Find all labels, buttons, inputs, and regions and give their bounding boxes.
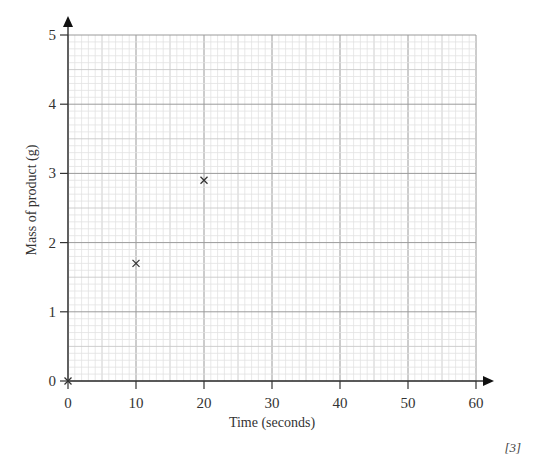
y-axis-label: Mass of product (g) — [24, 144, 40, 255]
x-tick-label: 20 — [197, 395, 212, 411]
y-tick-label: 0 — [49, 373, 57, 389]
x-tick-label: 40 — [333, 395, 348, 411]
x-tick-label: 10 — [129, 395, 144, 411]
x-tick-label: 50 — [401, 395, 416, 411]
x-axis-label: Time (seconds) — [229, 415, 316, 431]
marks-label: [3] — [504, 440, 521, 455]
x-tick-label: 30 — [265, 395, 280, 411]
y-tick-label: 3 — [49, 165, 57, 181]
grid — [68, 35, 476, 381]
scatter-chart: 0102030405060012345 Time (seconds) Mass … — [0, 0, 533, 465]
x-tick-label: 0 — [64, 395, 72, 411]
x-axis-arrow-icon — [483, 376, 494, 386]
x-tick-label: 60 — [469, 395, 484, 411]
y-tick-label: 1 — [49, 304, 57, 320]
y-tick-label: 5 — [49, 27, 57, 43]
y-tick-label: 4 — [49, 96, 57, 112]
y-axis-arrow-icon — [63, 16, 73, 27]
y-tick-label: 2 — [49, 235, 57, 251]
